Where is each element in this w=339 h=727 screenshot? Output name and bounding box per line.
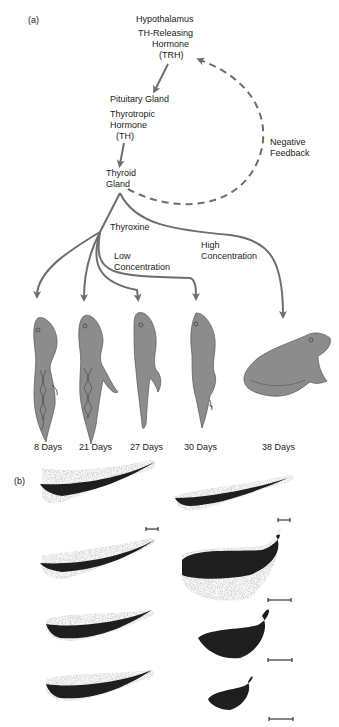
thyroxine-label: Thyroxine (110, 222, 150, 233)
tadpole-21-days (79, 315, 118, 444)
frog-38-days (244, 333, 330, 396)
arrow-th-to-thyroid (120, 143, 124, 164)
negative-feedback-line2: Feedback (270, 148, 310, 159)
trh-label-line2: Hormone (152, 39, 189, 50)
tadpole-27-days (134, 313, 161, 429)
low-concentration-line2: Concentration (114, 262, 170, 273)
stage-label-27-days: 27 Days (130, 442, 163, 453)
tadpole-8-days (34, 317, 58, 442)
th-label-line1: Thyrotropic (110, 109, 155, 120)
tadpole-30-days (191, 313, 216, 428)
hypothalamus-label: Hypothalamus (136, 14, 194, 25)
th-label-line3: (TH) (116, 131, 134, 142)
trh-label-line3: (TRH) (159, 50, 184, 61)
high-concentration-line2: Concentration (201, 251, 257, 262)
stage-label-21-days: 21 Days (79, 442, 112, 453)
stage-label-8-days: 8 Days (34, 442, 62, 453)
panel-a-label: (a) (28, 15, 39, 26)
low-concentration-line1: Low (114, 251, 131, 262)
thyroid-label-line1: Thyroid (106, 168, 136, 179)
trh-label-line1: TH-Releasing (138, 28, 193, 39)
negative-feedback-arrow (128, 60, 263, 204)
panel-b-label: (b) (14, 476, 25, 487)
th-label-line2: Hormone (110, 120, 147, 131)
stage-label-38-days: 38 Days (262, 442, 295, 453)
pituitary-label: Pituitary Gland (110, 94, 169, 105)
arrow-trh-to-pituitary (155, 64, 168, 90)
diagram-canvas (0, 0, 339, 727)
stage-label-30-days: 30 Days (184, 442, 217, 453)
tail-series-right (175, 475, 294, 710)
high-concentration-line1: High (201, 240, 220, 251)
tail-series-left (40, 460, 156, 701)
thyroid-label-line2: Gland (106, 179, 130, 190)
negative-feedback-line1: Negative (270, 137, 306, 148)
